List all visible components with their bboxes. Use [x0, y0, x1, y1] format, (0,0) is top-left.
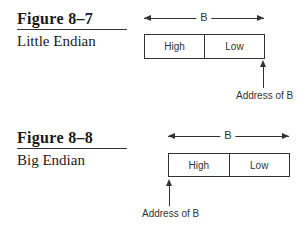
figure-caption: Big Endian [17, 152, 85, 169]
address-label: Address of B [142, 208, 199, 219]
figure-caption: Little Endian [17, 33, 96, 50]
width-label: B [196, 11, 211, 23]
cell-low: Low [204, 35, 264, 58]
cell-low: Low [229, 154, 290, 176]
memory-word-box: High Low [144, 34, 265, 59]
address-arrow-up-icon [260, 60, 267, 88]
memory-word-box: High Low [168, 153, 290, 177]
address-label: Address of B [236, 90, 293, 101]
figure-number: Figure 8–7 [17, 10, 93, 28]
cell-high: High [169, 154, 229, 176]
cell-high: High [145, 35, 204, 58]
address-arrow-up-icon [166, 179, 173, 206]
arrowhead-right-icon [257, 15, 264, 21]
arrowhead-right-icon [282, 133, 289, 139]
figure-number: Figure 8–8 [17, 129, 93, 147]
width-arrow: B [168, 132, 289, 142]
title-rule [17, 29, 127, 30]
width-arrow: B [144, 14, 264, 24]
width-label: B [220, 129, 235, 141]
title-rule [17, 148, 127, 149]
